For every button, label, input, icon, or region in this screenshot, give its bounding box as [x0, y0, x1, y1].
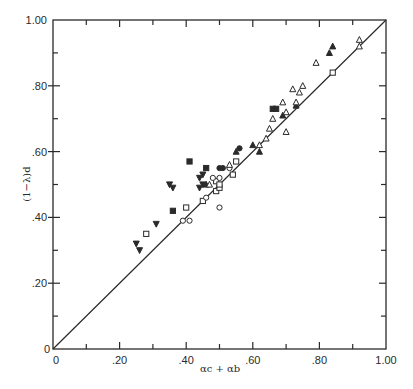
y-tick-label: .40 [32, 211, 47, 223]
open-circle-marker [210, 175, 215, 180]
filled-up-triangle-marker [250, 142, 256, 148]
open-up-triangle-marker [266, 125, 272, 131]
x-tick-label: 0 [53, 354, 59, 366]
x-tick-label: .40 [179, 354, 194, 366]
open-square-marker [184, 205, 189, 210]
open-up-triangle-marker [283, 109, 289, 115]
open-up-triangle-marker [296, 89, 302, 95]
filled-square-marker [187, 159, 192, 164]
y-tick-label: 0 [44, 343, 50, 355]
open-up-triangle-marker [280, 99, 286, 105]
open-circle-marker [217, 175, 222, 180]
open-up-triangle-marker [300, 83, 306, 89]
open-up-triangle-marker [293, 99, 299, 105]
x-tick-label: .80 [312, 354, 327, 366]
filled-up-triangle-marker [330, 43, 336, 49]
filled-square-marker [170, 208, 175, 213]
y-axis-label: (1−λ)d [21, 166, 32, 202]
open-up-triangle-marker [270, 116, 276, 122]
filled-circle-marker [220, 165, 225, 170]
open-up-triangle-marker [283, 129, 289, 135]
x-tick-label: .60 [245, 354, 260, 366]
open-circle-marker [187, 218, 192, 223]
open-circle-marker [217, 205, 222, 210]
open-square-marker [330, 70, 335, 75]
tick-labels: 0.20.40.60.801.000.20.40.60.801.00 [26, 14, 397, 366]
y-tick-label: .60 [32, 146, 47, 158]
y-tick-label: .80 [32, 80, 47, 92]
filled-up-triangle-marker [256, 148, 262, 154]
filled-down-triangle-marker [197, 185, 203, 191]
filled-down-triangle-marker [133, 241, 139, 247]
y-tick-label: 1.00 [26, 14, 47, 26]
open-square-marker [230, 172, 235, 177]
open-circle-marker [180, 218, 185, 223]
open-square-marker [144, 231, 149, 236]
open-up-triangle-marker [290, 86, 296, 92]
filled-circle-marker [237, 146, 242, 151]
filled-up-triangle-marker [326, 50, 332, 56]
filled-down-triangle-marker [170, 185, 176, 191]
x-axis-label: αc + αb [200, 363, 240, 374]
filled-down-triangle-marker [153, 221, 159, 227]
x-tick-label: 1.00 [375, 354, 396, 366]
y-tick-label: .20 [32, 277, 47, 289]
filled-square-marker [204, 165, 209, 170]
open-square-marker [234, 159, 239, 164]
filled-square-marker [274, 106, 279, 111]
open-up-triangle-marker [313, 60, 319, 66]
scatter-chart: 0.20.40.60.801.000.20.40.60.801.00 αc + … [0, 0, 413, 389]
data-points [133, 37, 362, 254]
open-up-triangle-marker [356, 37, 362, 43]
filled-down-triangle-marker [137, 248, 143, 254]
x-tick-label: .20 [112, 354, 127, 366]
open-square-marker [217, 182, 222, 187]
open-up-triangle-marker [226, 162, 232, 168]
open-circle-marker [204, 195, 209, 200]
